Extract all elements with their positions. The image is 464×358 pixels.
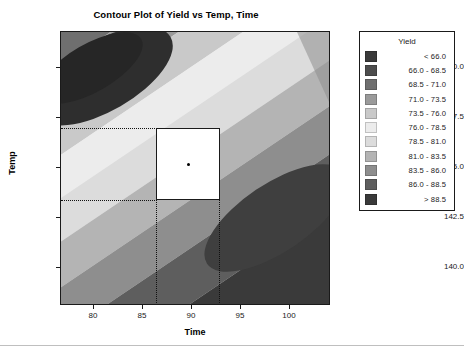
x-tick-mark (240, 305, 241, 309)
legend-color-swatch (365, 79, 377, 90)
reference-line-horizontal-lower (61, 200, 157, 201)
legend-row: 66.0 - 68.5 (360, 63, 454, 77)
footer-divider (0, 345, 464, 346)
legend-color-swatch (365, 165, 377, 176)
legend-label: 68.5 - 71.0 (377, 80, 454, 89)
y-tick-mark (56, 267, 60, 268)
legend-label: 81.0 - 83.5 (377, 152, 454, 161)
reference-line-vertical-left (156, 200, 157, 305)
center-point-marker (187, 163, 190, 166)
legend-row: 68.5 - 71.0 (360, 78, 454, 92)
y-tick-mark (56, 167, 60, 168)
legend-label: 66.0 - 68.5 (377, 66, 454, 75)
legend-color-swatch (365, 136, 377, 147)
x-tick-label: 95 (223, 311, 257, 320)
y-tick-label: 140.0 (418, 262, 464, 271)
legend-items: < 66.066.0 - 68.568.5 - 71.071.0 - 73.57… (360, 49, 454, 206)
legend-row: 86.0 - 88.5 (360, 178, 454, 192)
legend-label: < 66.0 (377, 52, 454, 61)
page-title: Contour Plot of Yield vs Temp, Time (0, 9, 352, 20)
legend-label: 86.0 - 88.5 (377, 180, 454, 189)
x-axis-title: Time (60, 327, 330, 337)
y-tick-mark (56, 117, 60, 118)
x-tick-mark (191, 305, 192, 309)
legend-color-swatch (365, 51, 377, 62)
legend-row: 78.5 - 81.0 (360, 135, 454, 149)
x-tick-label: 80 (76, 311, 110, 320)
x-tick-mark (93, 305, 94, 309)
x-tick-mark (142, 305, 143, 309)
y-tick-mark (56, 67, 60, 68)
legend-row: 76.0 - 78.5 (360, 120, 454, 134)
legend-label: > 88.5 (377, 195, 454, 204)
x-tick-label: 85 (125, 311, 159, 320)
legend-color-swatch (365, 94, 377, 105)
plot-area (60, 31, 330, 305)
x-tick-label: 90 (174, 311, 208, 320)
legend-label: 73.5 - 76.0 (377, 109, 454, 118)
legend-color-swatch (365, 122, 377, 133)
legend-label: 78.5 - 81.0 (377, 137, 454, 146)
legend-color-swatch (365, 179, 377, 190)
legend-row: 71.0 - 73.5 (360, 92, 454, 106)
legend-color-swatch (365, 194, 377, 205)
x-tick-mark (289, 305, 290, 309)
legend-color-swatch (365, 108, 377, 119)
y-tick-label: 142.5 (418, 212, 464, 221)
legend-row: > 88.5 (360, 192, 454, 206)
legend-row: 81.0 - 83.5 (360, 149, 454, 163)
legend: Yield < 66.066.0 - 68.568.5 - 71.071.0 -… (359, 31, 455, 211)
reference-line-horizontal-upper (61, 128, 157, 129)
legend-color-swatch (365, 65, 377, 76)
legend-title: Yield (360, 37, 454, 46)
legend-color-swatch (365, 151, 377, 162)
contour-plot-figure: Contour Plot of Yield vs Temp, Time (0, 0, 464, 358)
legend-label: 83.5 - 86.0 (377, 166, 454, 175)
y-tick-mark (56, 217, 60, 218)
legend-row: 83.5 - 86.0 (360, 163, 454, 177)
reference-line-vertical-right (219, 200, 220, 305)
legend-row: < 66.0 (360, 49, 454, 63)
legend-label: 71.0 - 73.5 (377, 95, 454, 104)
legend-label: 76.0 - 78.5 (377, 123, 454, 132)
legend-row: 73.5 - 76.0 (360, 106, 454, 120)
y-axis-title: Temp (7, 133, 17, 193)
x-tick-label: 100 (272, 311, 306, 320)
